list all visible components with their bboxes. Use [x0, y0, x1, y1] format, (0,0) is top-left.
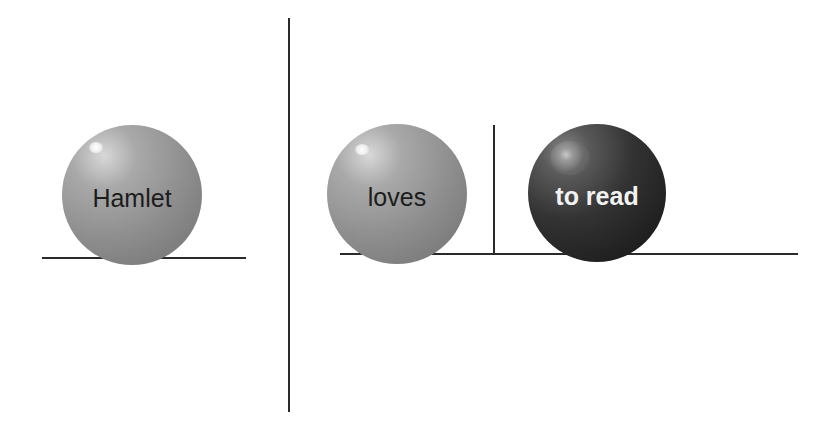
ball-label: loves [368, 183, 426, 212]
inner-divider-line [493, 125, 495, 255]
ball-highlight [89, 142, 103, 153]
ball-highlight [355, 144, 369, 155]
ball-loves: loves [327, 124, 467, 264]
ball-to-read: to read [528, 124, 666, 262]
main-divider-line [288, 18, 290, 412]
ball-highlight [550, 141, 590, 175]
ball-hamlet: Hamlet [62, 125, 202, 265]
ball-label: Hamlet [92, 184, 171, 213]
ball-label: to read [555, 182, 638, 211]
